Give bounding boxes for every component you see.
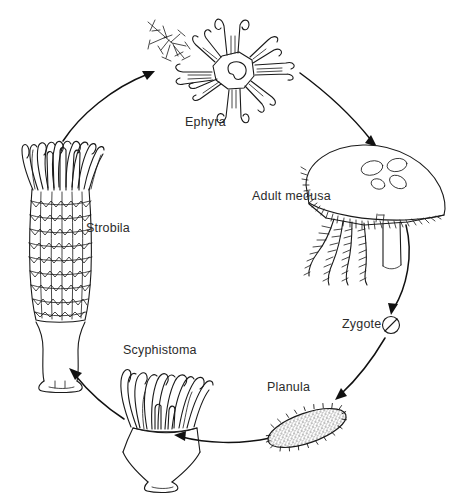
stage-label-adult-medusa: Adult medusa	[252, 190, 331, 203]
stage-label-strobila: Strobila	[86, 222, 130, 235]
arrow-scyphistoma-to-strobila	[69, 368, 124, 419]
stage-label-planula: Planula	[267, 381, 310, 394]
ephyra-icon	[148, 19, 294, 123]
arrow-medusa-to-zygote	[388, 225, 409, 315]
strobila-icon	[22, 141, 104, 392]
zygote-icon	[383, 317, 400, 334]
strobila-tentacles	[22, 141, 104, 190]
ephyra-bud-icon	[148, 20, 190, 61]
arrow-zygote-to-planula	[335, 338, 385, 400]
life-cycle-diagram: Ephyra Adult medusa Zygote Planula Scyph…	[0, 0, 460, 499]
arrow-strobila-to-ephyra	[63, 71, 155, 141]
strobila-segments	[29, 189, 92, 322]
arrow-ephyra-to-medusa	[300, 73, 377, 147]
scyphistoma-icon	[121, 369, 213, 492]
stage-label-scyphistoma: Scyphistoma	[123, 344, 197, 357]
planula-icon	[260, 394, 353, 459]
diagram-canvas	[0, 0, 460, 499]
adult-medusa-icon	[301, 145, 445, 285]
arrow-planula-to-scyphistoma	[174, 431, 270, 442]
stage-label-zygote: Zygote	[342, 318, 381, 331]
stage-label-ephyra: Ephyra	[185, 116, 226, 129]
